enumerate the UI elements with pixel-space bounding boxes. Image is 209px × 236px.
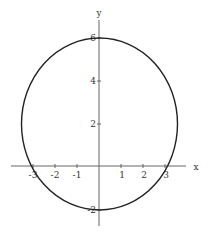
y-axis-label: y — [95, 8, 102, 18]
x-axis-label: x — [193, 162, 198, 172]
y-tick-label: 4 — [90, 76, 96, 86]
y-tick-label: 2 — [90, 119, 96, 129]
x-tick-label: 2 — [141, 170, 147, 180]
x-tick-label: -2 — [51, 170, 60, 180]
x-tick-label: 1 — [119, 170, 125, 180]
x-tick-label: -1 — [73, 170, 82, 180]
ellipse-plot: -3 -2 -1 1 2 3 -2 2 4 6 x y — [0, 0, 209, 236]
